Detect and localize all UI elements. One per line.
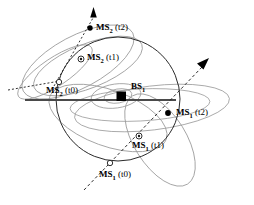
label-ms2-t2-name: MS xyxy=(96,22,110,32)
label-bs1: BS1 xyxy=(131,82,145,93)
label-bs1-sub: 1 xyxy=(142,86,145,93)
label-ms1-t2: MS1 (t2) xyxy=(176,108,208,119)
label-ms2-t2-suffix: (t2) xyxy=(113,22,128,32)
label-ms2-t0-name: MS xyxy=(46,85,60,95)
ms2-t2-marker-dot xyxy=(87,25,92,30)
label-ms1-t0-suffix: (t0) xyxy=(116,169,131,179)
ms2-t0-marker-hollow xyxy=(56,79,61,84)
label-ms1-t1-suffix: (t1) xyxy=(149,140,164,150)
label-ms2-t0: MS2 (t0) xyxy=(46,86,78,97)
ms1-direction-arrowhead xyxy=(197,58,209,70)
label-bs1-name: BS xyxy=(131,81,142,91)
ms1-t1-marker-crosshair xyxy=(136,133,142,139)
label-ms1-t2-suffix: (t2) xyxy=(193,107,208,117)
label-ms1-t0-name: MS xyxy=(99,169,113,179)
label-ms2-t1-suffix: (t1) xyxy=(104,52,119,62)
bs1-marker-square xyxy=(117,92,127,102)
label-ms2-t1: MS2 (t1) xyxy=(87,53,119,64)
ms2-direction-arrowhead xyxy=(90,7,97,18)
ms1-t0-marker-hollow xyxy=(107,160,112,165)
label-ms2-t1-name: MS xyxy=(87,52,101,62)
label-ms1-t2-name: MS xyxy=(176,107,190,117)
ms2-t1-marker-crosshair xyxy=(78,56,84,62)
label-ms1-t1: MS1 (t1) xyxy=(132,141,164,152)
label-ms1-t1-name: MS xyxy=(132,140,146,150)
network-geometry-figure: BS1 MS2 (t2) MS2 (t1) MS2 (t0) MS1 (t2) … xyxy=(0,0,254,205)
label-ms2-t0-suffix: (t0) xyxy=(63,85,78,95)
label-ms2-t2: MS2 (t2) xyxy=(96,23,128,34)
ms1-t2-marker-dot xyxy=(165,110,171,116)
label-ms1-t0: MS1 (t0) xyxy=(99,170,131,181)
